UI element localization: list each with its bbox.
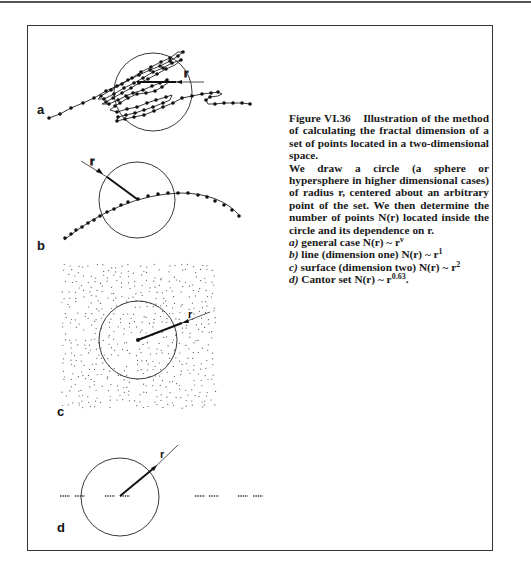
panel-c-r-label: r (188, 308, 193, 320)
caption-item-d: d) Cantor set N(r) ~ r0.63. (289, 273, 489, 285)
figure-caption: Figure VI.36 Illustration of the method … (289, 112, 489, 286)
panel-b-radius (107, 177, 137, 199)
caption-item-c: c) surface (dimension two) N(r) ~ r2 (289, 261, 489, 273)
caption-item-a: a) general case N(r) ~ rν (289, 236, 489, 248)
panel-b-r-label: r (90, 155, 95, 167)
figure-number: Figure VI.36 (289, 112, 351, 124)
caption-heading: Figure VI.36 Illustration of the method … (289, 112, 489, 162)
panel-c-radius (138, 323, 182, 340)
panel-d-r-label: r (160, 448, 165, 460)
panel-a-label: a (37, 102, 44, 117)
panel-d-radius (120, 468, 154, 496)
panel-c-diagram: r (61, 264, 216, 409)
caption-description: We draw a circle (a sphere or hyperspher… (289, 162, 489, 236)
panel-c-label: c (57, 404, 64, 419)
panel-b-label: b (37, 238, 45, 253)
panel-d-circle (81, 458, 159, 536)
panel-a-r-label: r (184, 67, 189, 79)
panel-d-label: d (57, 520, 65, 535)
panel-c-points (61, 264, 216, 409)
figure-drawings: r r r (0, 0, 531, 577)
panel-a-walk-path (49, 52, 250, 121)
panel-d-diagram: r (60, 445, 263, 536)
panel-b-diagram: r (63, 155, 241, 240)
panel-a-points (47, 50, 252, 123)
caption-items: a) general case N(r) ~ rν b) line (dimen… (289, 236, 489, 286)
panel-a-diagram: r (47, 50, 252, 131)
